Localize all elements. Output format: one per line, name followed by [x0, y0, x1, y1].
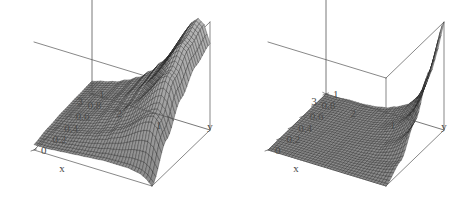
x-tick-label: 1 [390, 119, 396, 131]
x-tick-label: 2 [117, 107, 123, 119]
y-tick-label: 0.4 [298, 122, 312, 134]
y-tick-label: 0 [275, 144, 281, 156]
surface-plot-right: 12300.20.40.60.81xy [234, 0, 469, 219]
y-tick-label: 0.2 [287, 133, 301, 145]
y-tick-label: 0.4 [64, 122, 78, 134]
x-tick-label: 3 [77, 95, 83, 107]
x-axis-label: x [59, 162, 65, 174]
surface-plot-right-canvas: 12300.20.40.60.81xy [234, 0, 469, 219]
y-axis-label: y [207, 120, 213, 132]
figure-root: 12300.20.40.60.81xy 12300.20.40.60.81xy [0, 0, 469, 219]
y-tick-label: 0 [41, 144, 47, 156]
surface-mesh-left [34, 18, 210, 186]
y-tick-label: 0.8 [87, 99, 101, 111]
x-axis-label: x [293, 162, 299, 174]
surface-plot-left: 12300.20.40.60.81xy [0, 0, 235, 219]
x-tick-label: 2 [351, 107, 357, 119]
y-tick-label: 0.8 [321, 99, 335, 111]
y-tick-label: 0.2 [53, 133, 67, 145]
surface-plot-left-canvas: 12300.20.40.60.81xy [0, 0, 235, 219]
x-tick-label: 3 [311, 95, 317, 107]
x-tick-label: 1 [156, 119, 162, 131]
y-axis-label: y [441, 120, 447, 132]
y-tick-label: 0.6 [76, 110, 90, 122]
y-tick-label: 1 [333, 88, 339, 100]
y-tick-label: 1 [99, 88, 105, 100]
y-tick-label: 0.6 [310, 110, 324, 122]
